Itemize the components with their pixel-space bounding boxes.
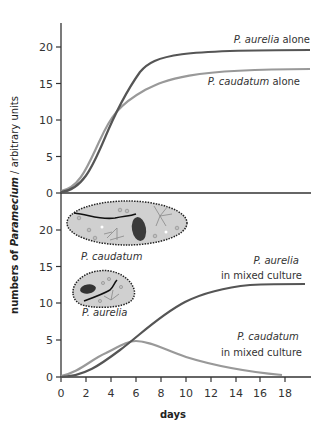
illustration-aurelia [73,271,135,308]
svg-text:0: 0 [46,187,53,200]
label-caudatum-mixed: P. caudatum in mixed culture [221,331,302,358]
top-chart: 0 5 10 15 20 P. aurelia alone P. caudatu… [39,23,311,200]
svg-text:16: 16 [253,387,267,400]
top-y-ticks [56,47,61,193]
x-tick-labels: 0 2 4 6 8 10 12 14 16 18 [58,387,293,400]
svg-text:10: 10 [179,387,193,400]
svg-text:10: 10 [39,297,53,310]
svg-text:12: 12 [204,387,218,400]
svg-text:6: 6 [133,387,140,400]
svg-text:5: 5 [46,334,53,347]
svg-text:15: 15 [39,261,53,274]
label-aurelia-mixed: P. aurelia in mixed culture [221,255,302,281]
svg-text:5: 5 [46,151,53,164]
line-aurelia-alone [61,50,310,192]
svg-text:4: 4 [108,387,115,400]
illustration-caudatum [67,201,187,245]
svg-text:18: 18 [278,387,292,400]
svg-text:0: 0 [46,371,53,384]
svg-text:10: 10 [39,114,53,127]
illustration-aurelia-label: P. aurelia [82,307,127,318]
svg-text:8: 8 [158,387,165,400]
label-aurelia-alone: P. aurelia alone [234,34,310,45]
bottom-y-tick-labels: 0 5 10 15 20 [39,224,53,384]
svg-text:0: 0 [58,387,65,400]
svg-text:14: 14 [229,387,243,400]
illustration-caudatum-label: P. caudatum [81,251,143,262]
label-caudatum-alone: P. caudatum alone [208,76,300,87]
svg-text:2: 2 [83,387,90,400]
x-ticks [61,377,285,382]
line-caudatum-alone [61,69,310,191]
y-axis-title: numbers of Paramecium / arbitrary units [9,96,20,314]
bottom-chart: 0 5 10 15 20 0 2 4 6 8 10 12 14 [39,193,311,420]
svg-text:20: 20 [39,41,53,54]
figure: 0 5 10 15 20 P. aurelia alone P. caudatu… [0,0,327,438]
x-axis-title: days [160,409,186,420]
svg-text:20: 20 [39,224,53,237]
svg-text:15: 15 [39,78,53,91]
top-y-tick-labels: 0 5 10 15 20 [39,41,53,200]
bottom-y-ticks [56,230,61,377]
